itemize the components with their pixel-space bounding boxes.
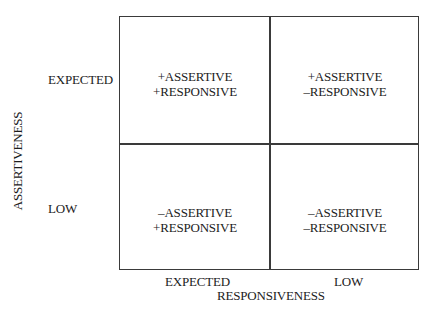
- quadrant-line: –ASSERTIVE: [270, 205, 420, 220]
- quadrant-top-right: +ASSERTIVE –RESPONSIVE: [270, 69, 420, 99]
- x-level-low: LOW: [334, 274, 363, 290]
- quadrant-line: +RESPONSIVE: [120, 84, 270, 99]
- quadrant-bottom-right: –ASSERTIVE –RESPONSIVE: [270, 205, 420, 235]
- x-axis-title: RESPONSIVENESS: [217, 288, 325, 304]
- y-level-expected: EXPECTED: [48, 72, 113, 88]
- quadrant-line: –RESPONSIVE: [270, 220, 420, 235]
- quadrant-top-left: +ASSERTIVE +RESPONSIVE: [120, 69, 270, 99]
- quadrant-line: +ASSERTIVE: [270, 69, 420, 84]
- quadrant-line: +RESPONSIVE: [120, 220, 270, 235]
- quadrant-line: –ASSERTIVE: [120, 205, 270, 220]
- horizontal-divider: [120, 143, 418, 145]
- quadrant-grid: +ASSERTIVE +RESPONSIVE +ASSERTIVE –RESPO…: [119, 16, 419, 270]
- y-level-low: LOW: [48, 201, 77, 217]
- quadrant-line: +ASSERTIVE: [120, 69, 270, 84]
- y-axis-title: ASSERTIVENESS: [10, 112, 26, 210]
- quadrant-line: –RESPONSIVE: [270, 84, 420, 99]
- quadrant-bottom-left: –ASSERTIVE +RESPONSIVE: [120, 205, 270, 235]
